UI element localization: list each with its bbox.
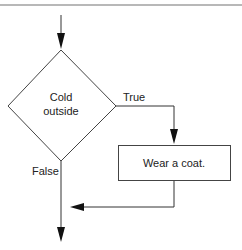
flowchart-canvas bbox=[0, 0, 242, 250]
action-label: Wear a coat. bbox=[118, 145, 230, 180]
return-connector bbox=[70, 181, 174, 211]
entry-arrow bbox=[57, 15, 65, 49]
false-branch-label: False bbox=[32, 165, 59, 178]
decision-label-line1: Cold bbox=[28, 90, 94, 104]
decision-label: Cold outside bbox=[28, 90, 94, 118]
decision-label-line2: outside bbox=[28, 104, 94, 118]
true-branch-label: True bbox=[123, 91, 145, 104]
true-branch-connector bbox=[116, 106, 178, 144]
